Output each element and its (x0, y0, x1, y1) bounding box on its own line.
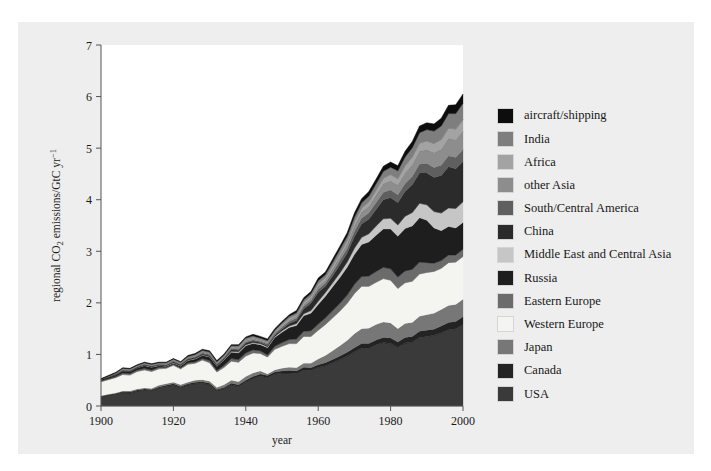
x-axis-tick-label: 1920 (161, 414, 185, 428)
legend-swatch-icon (497, 270, 514, 286)
legend-swatch-icon (497, 224, 514, 240)
x-axis-tick-label: 2000 (451, 414, 475, 428)
legend-item-label: other Asia (524, 179, 575, 192)
legend-item: USA (497, 382, 697, 405)
legend-item-label: Western Europe (524, 318, 604, 331)
y-axis-tick-label: 4 (86, 193, 92, 207)
y-axis-tick-label: 2 (86, 296, 92, 310)
legend-item-label: Eastern Europe (524, 295, 601, 308)
y-axis-tick-label: 0 (86, 400, 92, 414)
legend-item-label: Africa (524, 156, 556, 169)
legend-item-label: aircraft/shipping (524, 109, 607, 122)
legend-swatch-icon (497, 363, 514, 379)
legend-item-label: India (524, 133, 550, 146)
legend-swatch-icon (497, 247, 514, 263)
legend-swatch-icon (497, 200, 514, 216)
legend-item: South/Central America (497, 197, 697, 220)
legend-item-label: Japan (524, 341, 552, 354)
x-axis-tick-label: 1900 (89, 414, 113, 428)
legend-item: Middle East and Central Asia (497, 243, 697, 266)
legend-swatch-icon (497, 339, 514, 355)
legend-item-label: USA (524, 388, 549, 401)
y-axis-tick-label: 6 (86, 90, 92, 104)
chart-legend: aircraft/shippingIndiaAfricaother AsiaSo… (497, 104, 697, 405)
legend-item: Japan (497, 336, 697, 359)
legend-item: China (497, 220, 697, 243)
legend-item-label: Canada (524, 364, 561, 377)
legend-swatch-icon (497, 293, 514, 309)
x-axis-tick-label: 1960 (306, 414, 330, 428)
legend-item-label: Middle East and Central Asia (524, 248, 671, 261)
legend-item: Western Europe (497, 313, 697, 336)
figure-page: 01234567190019201940196019802000yearregi… (0, 0, 711, 471)
legend-swatch-icon (497, 177, 514, 193)
y-axis-title: regional CO2 emissions/GtC yr−1 (48, 149, 65, 302)
legend-swatch-icon (497, 108, 514, 124)
y-axis-tick-label: 1 (86, 348, 92, 362)
legend-item: Africa (497, 150, 697, 173)
x-axis-tick-label: 1980 (379, 414, 403, 428)
legend-swatch-icon (497, 386, 514, 402)
legend-item-label: South/Central America (524, 202, 639, 215)
y-axis-tick-label: 3 (86, 245, 92, 259)
legend-item: other Asia (497, 174, 697, 197)
y-axis-tick-label: 7 (86, 39, 92, 53)
legend-item-label: Russia (524, 272, 557, 285)
legend-swatch-icon (497, 316, 514, 332)
legend-swatch-icon (497, 131, 514, 147)
legend-item: aircraft/shipping (497, 104, 697, 127)
legend-item: India (497, 127, 697, 150)
legend-swatch-icon (497, 154, 514, 170)
x-axis-title: year (272, 434, 292, 447)
legend-item-label: China (524, 225, 554, 238)
legend-item: Russia (497, 266, 697, 289)
legend-item: Eastern Europe (497, 290, 697, 313)
y-axis-tick-label: 5 (86, 142, 92, 156)
x-axis-tick-label: 1940 (234, 414, 258, 428)
legend-item: Canada (497, 359, 697, 382)
